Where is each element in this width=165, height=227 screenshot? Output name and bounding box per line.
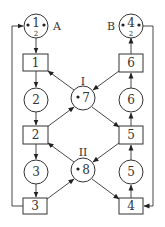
transition-1: 1 <box>23 54 48 71</box>
arc-t6-p7 <box>93 71 119 90</box>
token-dot <box>76 167 79 170</box>
transition-4: 4 <box>119 198 143 214</box>
transition-label: 5 <box>127 128 135 142</box>
place-3: 3 <box>24 160 48 184</box>
token-count: 2 <box>129 30 133 38</box>
arc-t3-p1 <box>12 26 23 206</box>
place-tag-b: B <box>107 20 115 33</box>
transition-5: 5 <box>119 126 143 144</box>
place-8: 8 <box>71 158 95 182</box>
transition-3: 3 <box>23 198 47 214</box>
token-dot <box>137 23 140 26</box>
token-dot <box>121 23 124 26</box>
transition-2: 2 <box>23 126 48 144</box>
place-2: 2 <box>24 88 48 112</box>
token-dot <box>26 23 29 26</box>
arc-t3-p8 <box>47 179 74 199</box>
arc-p4-t4 <box>143 26 153 206</box>
transition-label: 1 <box>32 56 40 70</box>
arc-t2-p7 <box>47 107 74 127</box>
place-label: 2 <box>32 93 40 107</box>
arc-p7-t1 <box>48 71 74 90</box>
place-7: 7 <box>71 86 95 110</box>
place-label: 6 <box>127 93 135 107</box>
place-label: 4 <box>127 16 135 30</box>
arc-p8-t4 <box>92 179 119 199</box>
place-label: 3 <box>32 165 40 179</box>
place-1: 1 2 <box>24 14 48 38</box>
place-4: 4 2 <box>119 14 143 38</box>
transition-label: 2 <box>32 128 40 142</box>
place-label: 5 <box>127 165 135 179</box>
token-count: 2 <box>34 30 38 38</box>
arc-p7-t5 <box>92 107 119 127</box>
place-tag-a: A <box>52 20 62 33</box>
token-dot <box>76 95 79 98</box>
place-label: 7 <box>82 91 90 105</box>
petri-net-diagram: 1 2 A 4 2 B 2 3 6 5 I 7 II 8 <box>0 0 165 227</box>
place-label: 1 <box>32 16 40 30</box>
place-5: 5 <box>119 160 143 184</box>
transition-6: 6 <box>119 54 143 72</box>
arc-p8-t2 <box>48 143 74 162</box>
place-6: 6 <box>119 88 143 112</box>
transition-label: 4 <box>127 199 135 213</box>
place-label: 8 <box>82 163 90 177</box>
token-dot <box>42 23 45 26</box>
resource-tag-ii: II <box>79 146 88 159</box>
transition-label: 3 <box>31 199 39 213</box>
arc-t5-p8 <box>93 143 119 162</box>
transition-label: 6 <box>127 56 135 70</box>
